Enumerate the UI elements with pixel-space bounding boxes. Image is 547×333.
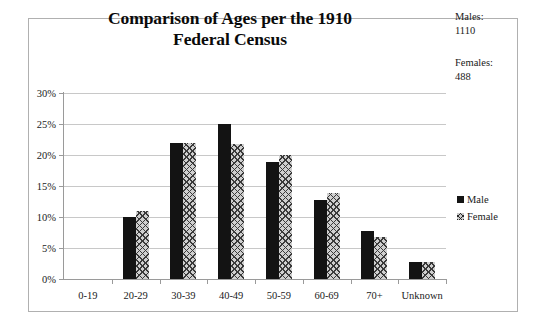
plot-area [64, 93, 446, 279]
bar-group [207, 93, 255, 279]
x-axis-label-019: 0-19 [78, 290, 97, 301]
chart-title-line-2: Federal Census [40, 29, 420, 50]
bar-group [351, 93, 399, 279]
x-axis-label-5059: 50-59 [267, 290, 292, 301]
x-axis-label-4049: 40-49 [219, 290, 244, 301]
bar-female-4049[interactable] [231, 144, 244, 279]
bar-male-3039[interactable] [170, 143, 183, 279]
bar-female-3039[interactable] [183, 143, 196, 279]
bar-group [112, 93, 160, 279]
bar-male-Unknown[interactable] [409, 262, 422, 279]
bar-male-6069[interactable] [314, 200, 327, 279]
y-axis-labels: 0%5%10%15%20%25%30% [8, 0, 56, 333]
x-axis-tick [207, 279, 208, 284]
bar-male-2029[interactable] [123, 217, 136, 279]
x-axis-tick [303, 279, 304, 284]
y-axis-tick [59, 124, 64, 125]
bar-male-5059[interactable] [266, 162, 279, 279]
y-axis-label: 30% [12, 88, 56, 99]
x-axis-label-Unknown: Unknown [401, 290, 442, 301]
y-axis-tick [59, 217, 64, 218]
annotation-females-label: Females: [455, 56, 493, 70]
bar-female-2029[interactable] [136, 211, 149, 279]
y-axis-label: 15% [12, 181, 56, 192]
bar-group [398, 93, 446, 279]
bar-male-70[interactable] [361, 231, 374, 279]
bar-group [255, 93, 303, 279]
x-axis-tick [351, 279, 352, 284]
x-axis-tick [160, 279, 161, 284]
bar-group [160, 93, 208, 279]
y-axis-label: 25% [12, 119, 56, 130]
annotation-males-value: 1110 [455, 24, 484, 38]
x-axis-tick [446, 279, 447, 284]
y-axis-label: 10% [12, 212, 56, 223]
x-axis-label-6069: 60-69 [314, 290, 339, 301]
x-axis-label-3039: 30-39 [171, 290, 196, 301]
y-axis-label: 20% [12, 150, 56, 161]
bar-group [64, 93, 112, 279]
bar-female-70[interactable] [374, 237, 387, 279]
annotation-females: Females: 488 [455, 56, 493, 83]
annotation-males: Males: 1110 [455, 10, 484, 37]
bar-series-container [64, 93, 446, 279]
y-axis-label: 0% [12, 274, 56, 285]
annotation-males-label: Males: [455, 10, 484, 24]
bar-female-5059[interactable] [279, 155, 292, 279]
y-axis-label: 5% [12, 243, 56, 254]
chart-title-line-1: Comparison of Ages per the 1910 [40, 8, 420, 29]
y-axis-tick [59, 155, 64, 156]
x-axis-label-70: 70+ [366, 290, 382, 301]
y-axis-tick [59, 279, 64, 280]
annotation-females-value: 488 [455, 70, 493, 84]
legend-item-female: Female [457, 208, 498, 225]
y-axis-tick [59, 248, 64, 249]
legend-swatch-male-icon [457, 196, 464, 203]
x-axis-tick [255, 279, 256, 284]
chart-title: Comparison of Ages per the 1910 Federal … [40, 8, 420, 50]
chart-legend: Male Female [457, 191, 498, 225]
bar-female-Unknown[interactable] [422, 262, 435, 279]
bar-group [303, 93, 351, 279]
legend-item-male: Male [457, 191, 498, 208]
legend-label-female: Female [467, 208, 498, 225]
bar-female-6069[interactable] [327, 193, 340, 279]
y-axis-tick [59, 186, 64, 187]
bar-male-4049[interactable] [218, 124, 231, 279]
legend-label-male: Male [467, 191, 489, 208]
x-axis-tick [112, 279, 113, 284]
x-axis-tick [398, 279, 399, 284]
x-axis-label-2029: 20-29 [123, 290, 148, 301]
legend-swatch-female-icon [457, 213, 464, 220]
y-axis-tick [59, 93, 64, 94]
